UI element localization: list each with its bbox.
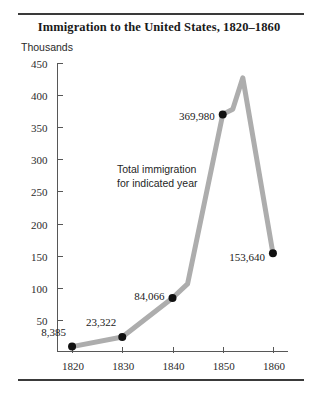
data-point-1820	[68, 343, 76, 351]
annotation-total-immigration: Total immigration for indicated year	[117, 163, 198, 190]
x-tick-label-1840: 1840	[163, 360, 185, 372]
series-immigration	[57, 63, 288, 352]
x-tick-label-1820: 1820	[62, 360, 84, 372]
x-tick-label-1830: 1830	[112, 360, 134, 372]
data-point-1840	[169, 294, 177, 302]
figure: Immigration to the United States, 1820–1…	[0, 0, 318, 397]
data-point-1830	[118, 333, 126, 341]
data-label-1830: 23,322	[86, 316, 116, 328]
y-tick-label-350: 350	[31, 122, 48, 134]
y-tick-label-100: 100	[31, 283, 48, 295]
data-label-1850: 369,980	[179, 110, 215, 122]
y-tick-label-200: 200	[31, 219, 48, 231]
plot-area: 45040035030025020015010050 1820183018401…	[57, 63, 288, 352]
y-tick-label-300: 300	[31, 154, 48, 166]
bottom-rule	[18, 379, 304, 381]
y-tick-label-250: 250	[31, 186, 48, 198]
chart-title: Immigration to the United States, 1820–1…	[0, 20, 318, 35]
y-axis-title: Thousands	[21, 41, 73, 53]
x-tick-label-1860: 1860	[263, 360, 285, 372]
marker-group	[68, 110, 277, 350]
data-label-1820: 8,385	[41, 326, 66, 338]
annotation-line-2: for indicated year	[117, 177, 198, 191]
series-line	[72, 78, 273, 347]
y-tick-label-450: 450	[31, 58, 48, 70]
y-tick-label-400: 400	[31, 90, 48, 102]
annotation-line-1: Total immigration	[117, 163, 198, 177]
top-rule	[18, 13, 304, 15]
data-label-1860: 153,640	[229, 251, 265, 263]
data-point-1860	[269, 249, 277, 257]
data-label-1840: 84,066	[134, 290, 164, 302]
y-tick-label-150: 150	[31, 251, 48, 263]
data-point-1850	[219, 110, 227, 118]
x-tick-label-1850: 1850	[213, 360, 235, 372]
